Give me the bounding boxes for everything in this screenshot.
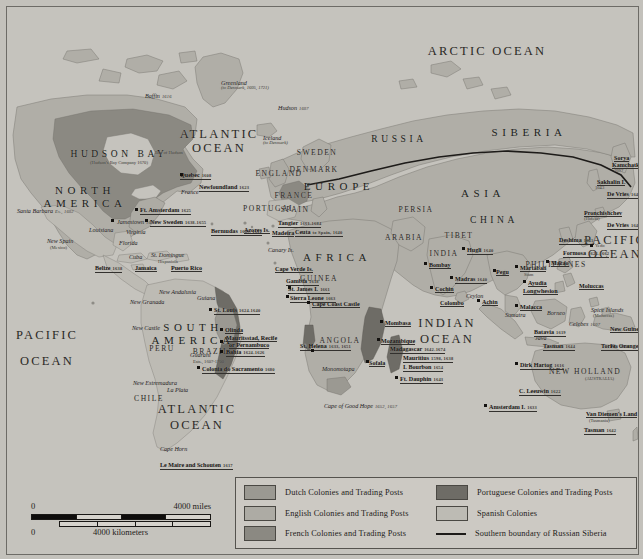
settlement-marker xyxy=(307,301,310,304)
settlement-marker xyxy=(209,308,212,311)
settlement-marker xyxy=(135,208,138,211)
legend-column-left: Dutch Colonies and Trading PostsEnglish … xyxy=(244,485,436,548)
legend-item-label: Portuguese Colonies and Trading Posts xyxy=(477,488,613,497)
settlement-marker xyxy=(430,286,433,289)
settlement-marker xyxy=(515,362,518,365)
map-scale-bar: 0 4000 miles 0 4000 kilometers xyxy=(31,501,211,549)
settlement-marker xyxy=(477,299,480,302)
scale-miles-zero: 0 xyxy=(31,501,35,511)
scale-miles-max: 4000 miles xyxy=(173,501,211,511)
legend-item: French Colonies and Trading Posts xyxy=(244,526,436,541)
settlement-marker xyxy=(462,247,465,250)
legend-item-label: Spanish Colonies xyxy=(477,509,537,518)
legend-item: Dutch Colonies and Trading Posts xyxy=(244,485,436,500)
scale-km-zero: 0 xyxy=(31,527,35,537)
legend-item: Portuguese Colonies and Trading Posts xyxy=(436,485,628,500)
settlement-marker xyxy=(380,320,383,323)
settlement-marker xyxy=(590,244,593,247)
settlement-marker xyxy=(366,360,369,363)
settlement-marker xyxy=(424,262,427,265)
settlement-marker xyxy=(377,338,380,341)
legend-item: Spanish Colonies xyxy=(436,506,628,521)
legend-item-label: Southern boundary of Russian Siberia xyxy=(475,529,607,538)
settlement-marker xyxy=(515,265,518,268)
settlement-marker xyxy=(484,404,487,407)
settlement-marker xyxy=(111,219,114,222)
settlement-marker xyxy=(197,366,200,369)
world-map-graphic: .land { fill:#b0aea7; stroke:#7c7a74; st… xyxy=(7,7,638,554)
settlement-marker xyxy=(220,350,223,353)
settlement-marker xyxy=(286,295,289,298)
legend-color-swatch xyxy=(244,526,276,541)
legend-color-swatch xyxy=(436,506,468,521)
legend-item: Southern boundary of Russian Siberia xyxy=(436,526,628,541)
legend-item: English Colonies and Trading Posts xyxy=(244,506,436,521)
legend-item-label: English Colonies and Trading Posts xyxy=(285,509,409,518)
settlement-marker xyxy=(515,304,518,307)
legend-column-right: Portuguese Colonies and Trading PostsSpa… xyxy=(436,485,628,548)
settlement-marker xyxy=(493,269,496,272)
settlement-marker xyxy=(523,280,526,283)
map-legend: Dutch Colonies and Trading PostsEnglish … xyxy=(235,477,637,549)
settlement-marker xyxy=(311,349,314,352)
legend-color-swatch xyxy=(436,485,468,500)
settlement-marker xyxy=(450,276,453,279)
legend-color-swatch xyxy=(244,506,276,521)
settlement-marker xyxy=(395,376,398,379)
scale-km-max: 4000 kilometers xyxy=(93,527,148,537)
legend-item-label: Dutch Colonies and Trading Posts xyxy=(285,488,403,497)
settlement-marker xyxy=(288,286,291,289)
legend-boundary-line xyxy=(436,533,466,535)
settlement-marker xyxy=(220,328,223,331)
legend-item-label: French Colonies and Trading Posts xyxy=(285,529,406,538)
map-frame: .land { fill:#b0aea7; stroke:#7c7a74; st… xyxy=(6,6,639,555)
settlement-marker xyxy=(546,260,549,263)
map-page: .land { fill:#b0aea7; stroke:#7c7a74; st… xyxy=(0,0,643,559)
legend-color-swatch xyxy=(244,485,276,500)
settlement-marker xyxy=(180,173,183,176)
settlement-marker xyxy=(220,340,223,343)
scale-bar-miles xyxy=(31,514,211,520)
settlement-marker xyxy=(145,219,148,222)
